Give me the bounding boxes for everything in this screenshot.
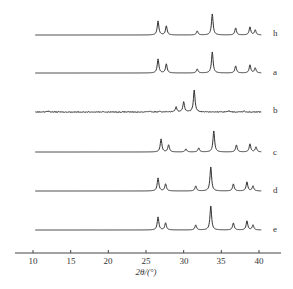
xrd-trace-c: [35, 131, 261, 152]
xrd-trace-b: [35, 90, 261, 112]
x-tick-label-15: 15: [67, 256, 76, 266]
xrd-plot: [0, 0, 293, 289]
x-tick-label-20: 20: [104, 256, 113, 266]
xrd-trace-e: [35, 206, 261, 230]
trace-label-e: e: [273, 224, 277, 234]
xrd-trace-h: [35, 14, 261, 35]
xrd-trace-a: [35, 52, 261, 73]
xrd-trace-d: [35, 167, 261, 191]
trace-label-c: c: [273, 147, 277, 157]
trace-label-h: h: [273, 28, 278, 38]
trace-label-b: b: [273, 105, 278, 115]
x-axis-title: 2θ/(°): [135, 267, 156, 277]
x-tick-label-40: 40: [255, 256, 264, 266]
trace-label-a: a: [273, 67, 277, 77]
trace-label-d: d: [273, 185, 278, 195]
x-tick-label-35: 35: [217, 256, 226, 266]
x-tick-label-30: 30: [180, 256, 189, 266]
xrd-traces: [35, 14, 261, 230]
x-tick-label-10: 10: [29, 256, 38, 266]
x-tick-label-25: 25: [142, 256, 151, 266]
